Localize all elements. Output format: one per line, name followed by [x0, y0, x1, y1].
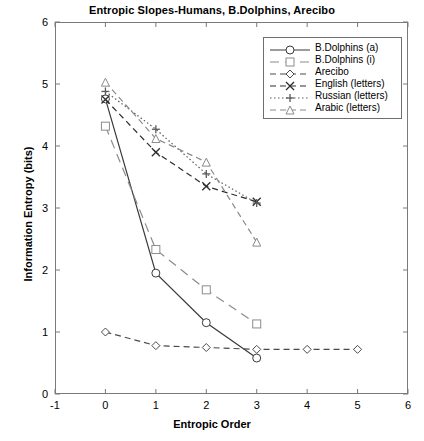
x-axis-label: Entropic Order	[0, 418, 424, 430]
legend-item[interactable]: B.Dolphins (i)	[264, 54, 401, 66]
y-tick-label: 3	[18, 202, 48, 214]
x-tick-label: 3	[242, 399, 272, 411]
legend-marker-icon	[268, 66, 312, 78]
x-tick-label: 5	[343, 399, 373, 411]
legend-item[interactable]: Arecibo	[264, 66, 401, 78]
entropy-chart: Entropic Slopes-Humans, B.Dolphins, Arec…	[0, 0, 424, 441]
y-tick-label: 2	[18, 264, 48, 276]
legend-item[interactable]: Russian (letters)	[264, 90, 401, 102]
legend-label: Arecibo	[312, 67, 349, 77]
y-tick-label: 1	[18, 326, 48, 338]
legend-marker-icon	[268, 90, 312, 102]
legend-label: Arabic (letters)	[312, 103, 380, 113]
legend-marker-icon	[268, 102, 312, 114]
legend-label: Russian (letters)	[312, 91, 388, 101]
x-tick-label: 4	[292, 399, 322, 411]
x-tick-label: 6	[393, 399, 423, 411]
legend-label: B.Dolphins (i)	[312, 55, 375, 65]
legend-item[interactable]: Arabic (letters)	[264, 102, 401, 114]
legend-item[interactable]: B.Dolphins (a)	[264, 42, 401, 54]
x-tick-label: 1	[141, 399, 171, 411]
y-axis-label: Information Entropy (bits)	[22, 104, 34, 324]
legend-marker-icon	[268, 78, 312, 90]
x-tick-label: -1	[40, 399, 70, 411]
legend-label: English (letters)	[312, 79, 384, 89]
legend-marker-icon	[268, 54, 312, 66]
y-tick-label: 6	[18, 16, 48, 28]
chart-legend: B.Dolphins (a)B.Dolphins (i)AreciboEngli…	[263, 37, 402, 119]
y-tick-label: 4	[18, 140, 48, 152]
legend-label: B.Dolphins (a)	[312, 43, 378, 53]
legend-marker-icon	[268, 42, 312, 54]
x-tick-label: 0	[90, 399, 120, 411]
x-tick-label: 2	[191, 399, 221, 411]
y-tick-label: 5	[18, 78, 48, 90]
legend-item[interactable]: English (letters)	[264, 78, 401, 90]
